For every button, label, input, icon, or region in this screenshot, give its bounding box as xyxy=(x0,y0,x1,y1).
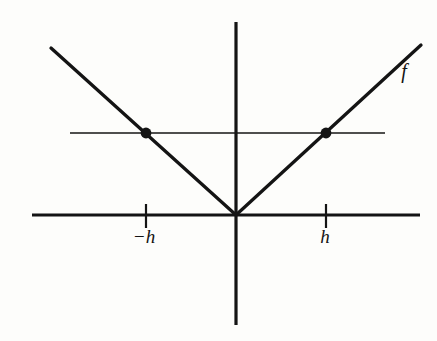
math-figure: −h h f xyxy=(0,0,437,341)
figure-canvas: −h h f xyxy=(0,0,437,341)
intersection-dot-left xyxy=(141,128,152,139)
x-tick-label-positive-h: h xyxy=(320,226,330,247)
figure-background xyxy=(0,0,437,341)
intersection-dot-right xyxy=(321,128,332,139)
x-tick-label-negative-h: −h xyxy=(133,226,155,247)
